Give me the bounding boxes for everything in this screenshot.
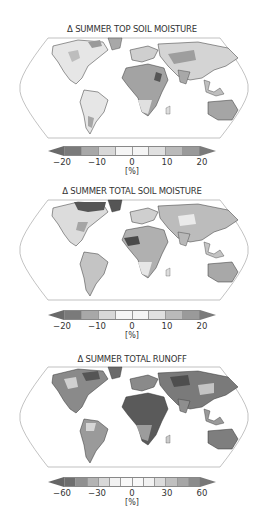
tick-label: 10 <box>162 321 173 331</box>
panel-title: Δ SUMMER TOTAL SOIL MOISTURE <box>0 186 264 196</box>
panel-title: Δ SUMMER TOP SOIL MOISTURE <box>0 24 264 34</box>
colorbar-unit: [%] <box>0 331 264 340</box>
panel-total-soil-moisture: Δ SUMMER TOTAL SOIL MOISTURE <box>0 176 264 352</box>
colorbar-unit: [%] <box>0 498 264 507</box>
colorbar-unit: [%] <box>0 167 264 176</box>
tick-label: 0 <box>129 488 134 498</box>
colorbar <box>48 310 216 320</box>
colorbar-extend-max <box>200 146 216 156</box>
panel-title: Δ SUMMER TOTAL RUNOFF <box>0 354 264 364</box>
tick-label: −20 <box>53 157 71 167</box>
colorbar-extend-min <box>48 146 64 156</box>
tick-label: 20 <box>197 157 208 167</box>
world-map <box>18 198 250 302</box>
tick-label: 0 <box>129 157 134 167</box>
colorbar-extend-max <box>200 310 216 320</box>
tick-label: 20 <box>197 321 208 331</box>
tick-label: 30 <box>162 488 173 498</box>
tick-label: −10 <box>88 157 106 167</box>
tick-label: −30 <box>88 488 106 498</box>
tick-label: 60 <box>197 488 208 498</box>
panel-total-runoff: Δ SUMMER TOTAL RUNOFF <box>0 352 264 528</box>
colorbar-extend-max <box>200 477 216 487</box>
colorbar <box>48 477 216 487</box>
tick-label: 0 <box>129 321 134 331</box>
tick-label: −10 <box>88 321 106 331</box>
tick-label: 10 <box>162 157 173 167</box>
tick-label: −60 <box>53 488 71 498</box>
colorbar-extend-min <box>48 310 64 320</box>
panel-top-soil-moisture: Δ SUMMER TOP SOIL MOISTURE <box>0 0 264 176</box>
tick-label: −20 <box>53 321 71 331</box>
colorbar-extend-min <box>48 477 64 487</box>
colorbar <box>48 146 216 156</box>
world-map <box>18 365 250 469</box>
world-map <box>18 36 250 140</box>
